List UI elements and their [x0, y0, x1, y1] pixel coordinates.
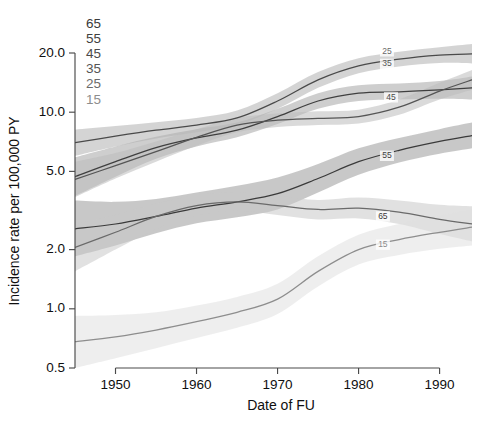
legend-entry-15[interactable]: 15	[86, 92, 101, 107]
y-tick-label: 10.0	[39, 104, 65, 119]
y-axis: 20.010.05.02.01.00.5	[39, 45, 75, 375]
chart-container: 20.010.05.02.01.00.5 1950196019701980199…	[0, 0, 490, 422]
y-axis-title: Incidence rate per 100,000 PY	[6, 116, 22, 306]
inline-series-label-45: 45	[386, 92, 396, 102]
x-tick-label: 1990	[425, 377, 455, 392]
y-tick-label: 20.0	[39, 45, 65, 60]
inline-series-label-25: 25	[382, 46, 392, 56]
legend-entry-25[interactable]: 25	[86, 76, 101, 91]
inline-series-label-65: 65	[378, 211, 388, 221]
incidence-rate-line-chart: 20.010.05.02.01.00.5 1950196019701980199…	[0, 0, 490, 422]
legend-entry-35[interactable]: 35	[86, 61, 101, 76]
confidence-bands	[75, 44, 472, 368]
y-tick-label: 2.0	[46, 241, 65, 256]
x-tick-label: 1970	[263, 377, 293, 392]
legend-entry-65[interactable]: 65	[86, 16, 101, 31]
legend-entry-45[interactable]: 45	[86, 46, 101, 61]
inline-series-label-35: 35	[382, 58, 392, 68]
y-tick-label: 0.5	[46, 360, 65, 375]
x-axis: 19501960197019801990	[100, 368, 454, 392]
y-tick-label: 5.0	[46, 163, 65, 178]
inline-series-label-55: 55	[382, 150, 392, 160]
x-axis-title: Date of FU	[247, 397, 315, 413]
x-tick-label: 1950	[100, 377, 130, 392]
legend-entry-55[interactable]: 55	[86, 31, 101, 46]
inline-series-label-15: 15	[378, 239, 388, 249]
x-tick-label: 1960	[182, 377, 212, 392]
x-tick-label: 1980	[344, 377, 374, 392]
legend: 655545352515	[86, 16, 101, 107]
y-tick-label: 1.0	[46, 300, 65, 315]
